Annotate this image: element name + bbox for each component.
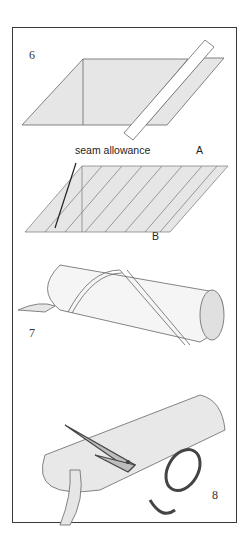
- step-6-fabric: [22, 40, 224, 140]
- step-6-striped-fabric: [25, 163, 228, 232]
- step-7-tube: [18, 265, 224, 345]
- illustration: [0, 0, 249, 552]
- step-8-tube: [42, 395, 225, 525]
